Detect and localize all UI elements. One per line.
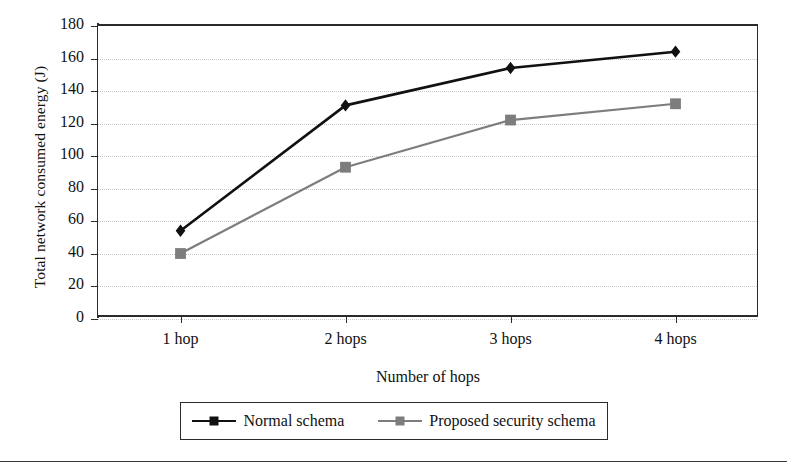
y-axis-tick xyxy=(91,156,98,157)
y-axis-tick xyxy=(91,26,98,27)
x-axis-tick xyxy=(511,315,512,323)
gridline xyxy=(98,221,757,222)
plot-area xyxy=(98,24,758,317)
y-axis-tick-label: 60 xyxy=(24,211,84,227)
y-axis-tick-label: 140 xyxy=(24,81,84,97)
x-axis-tick-label: 1 hop xyxy=(121,330,241,348)
legend-symbol xyxy=(378,414,422,428)
gridline xyxy=(98,254,757,255)
y-axis-tick xyxy=(91,254,98,255)
y-axis-tick-label: 180 xyxy=(24,16,84,32)
legend-symbol xyxy=(192,414,236,428)
diamond-marker-icon xyxy=(210,417,219,426)
figure-container: Total network consumed energy (J) 020406… xyxy=(0,0,787,472)
y-axis-tick-label: 120 xyxy=(24,114,84,130)
y-axis-tick xyxy=(91,319,98,320)
gridline xyxy=(98,124,757,125)
gridline xyxy=(98,91,757,92)
gridline xyxy=(98,156,757,157)
y-axis-tick-label: 160 xyxy=(24,49,84,65)
legend-entry-1[interactable]: Normal schema xyxy=(192,412,344,430)
legend-label: Normal schema xyxy=(243,412,344,430)
y-axis-tick xyxy=(91,221,98,222)
x-axis-tick xyxy=(181,315,182,323)
y-axis-tick-label: 100 xyxy=(24,146,84,162)
square-marker-icon xyxy=(396,417,405,426)
x-axis-tick-label: 4 hops xyxy=(616,330,736,348)
x-axis-tick xyxy=(346,315,347,323)
y-axis-tick xyxy=(91,91,98,92)
chart-legend: Normal schemaProposed security schema xyxy=(180,402,608,440)
y-axis-tick xyxy=(91,59,98,60)
gridline xyxy=(98,189,757,190)
y-axis-tick-label: 40 xyxy=(24,244,84,260)
y-axis-tick-label: 80 xyxy=(24,179,84,195)
y-axis-tick-label: 0 xyxy=(24,309,84,325)
y-axis-tick-label: 20 xyxy=(24,276,84,292)
x-axis-tick-label: 2 hops xyxy=(286,330,406,348)
legend-label: Proposed security schema xyxy=(429,412,595,430)
legend-entry-2[interactable]: Proposed security schema xyxy=(378,412,595,430)
y-axis-tick xyxy=(91,124,98,125)
x-axis-tick-label: 3 hops xyxy=(451,330,571,348)
x-axis-tick xyxy=(676,315,677,323)
gridline xyxy=(98,59,757,60)
gridline xyxy=(98,319,757,320)
x-axis-title: Number of hops xyxy=(98,368,758,386)
y-axis-tick xyxy=(91,189,98,190)
gridline xyxy=(98,286,757,287)
page-rule xyxy=(0,461,787,462)
y-axis-tick xyxy=(91,286,98,287)
